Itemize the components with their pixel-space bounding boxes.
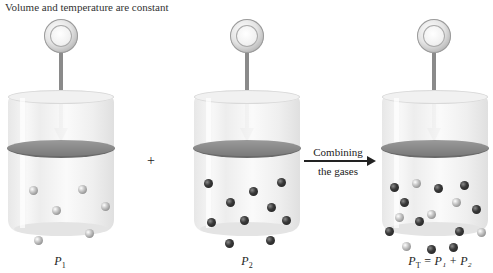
molecule-dark — [240, 216, 249, 225]
molecule-dark — [472, 205, 481, 214]
molecule-dark — [455, 227, 464, 236]
container-gas-1 — [8, 90, 114, 240]
piston — [193, 140, 301, 162]
molecule-light — [477, 228, 486, 237]
molecule-dark — [204, 179, 213, 188]
molecule-dark — [415, 217, 424, 226]
molecule-dark — [207, 218, 216, 227]
molecule-dark — [427, 245, 436, 254]
container-gas-2 — [194, 90, 300, 240]
molecule-dark — [385, 227, 394, 236]
molecule-light — [34, 236, 43, 245]
molecule-light — [78, 185, 87, 194]
molecule-dark — [225, 239, 234, 248]
plus-sign: + — [147, 153, 155, 169]
label-ptotal: PT = P₁ + P₂ — [395, 254, 485, 270]
molecule-dark — [390, 183, 399, 192]
molecule-dark — [400, 198, 409, 207]
molecule-dark — [449, 243, 458, 252]
molecule-light — [85, 229, 94, 238]
molecule-dark — [277, 178, 286, 187]
combining-arrow: Combining the gases — [304, 143, 372, 181]
piston — [381, 140, 489, 162]
label-p1: P1 — [45, 254, 75, 270]
molecule-light — [452, 198, 461, 207]
molecule-dark — [434, 184, 443, 193]
molecule-light — [29, 186, 38, 195]
molecule-dark — [282, 216, 291, 225]
pressure-gauge-icon — [230, 19, 264, 53]
molecule-dark — [249, 187, 258, 196]
right-arrow-icon — [367, 156, 376, 166]
molecule-light — [412, 179, 421, 188]
diagram-title: Volume and temperature are constant — [5, 1, 169, 13]
pressure-gauge-icon — [44, 19, 78, 53]
molecule-light — [427, 210, 436, 219]
arrow-shaft — [304, 160, 368, 162]
label-p2: P2 — [232, 254, 262, 270]
molecule-light — [52, 206, 61, 215]
pressure-gauge-icon — [417, 19, 451, 53]
molecule-light — [402, 242, 411, 251]
molecule-dark — [460, 181, 469, 190]
molecule-dark — [266, 236, 275, 245]
molecule-light — [101, 202, 110, 211]
container-mixture — [382, 90, 488, 240]
molecule-light — [395, 213, 404, 222]
molecule-dark — [267, 203, 276, 212]
combine-text-line2: the gases — [304, 162, 372, 181]
piston — [7, 140, 115, 162]
molecule-dark — [226, 198, 235, 207]
